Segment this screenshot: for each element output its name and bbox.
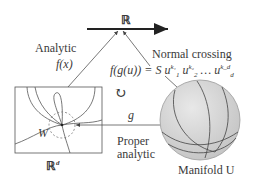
term-2: uk₂2	[182, 63, 197, 77]
formula-lhs: f(g(u)) = S	[110, 63, 161, 77]
f-of-x-label: f(x)	[56, 58, 73, 70]
term-1: uk₁1	[164, 63, 179, 77]
w-label: W	[38, 127, 48, 139]
analytic-label: Analytic	[35, 42, 76, 54]
domain-space-label: ℝd	[46, 160, 60, 172]
singular-point	[61, 124, 64, 127]
f-map-arrow	[68, 31, 118, 87]
domain-box	[15, 87, 102, 153]
manifold-label: Manifold U	[178, 164, 234, 176]
proper-label: Proper	[117, 135, 149, 147]
target-space-label: ℝ	[121, 14, 131, 26]
g-label: g	[128, 109, 134, 121]
term-d: uk_dd	[214, 63, 234, 77]
normal-crossing-title: Normal crossing	[152, 48, 232, 60]
ellipsis: …	[201, 63, 212, 77]
analytic-g-label: analytic	[117, 148, 155, 160]
commute-icon: ↻	[114, 86, 127, 101]
normal-crossing-formula: f(g(u)) = S uk₁1 uk₂2 … uk_dd	[110, 64, 234, 76]
composition-arrow	[123, 31, 150, 66]
